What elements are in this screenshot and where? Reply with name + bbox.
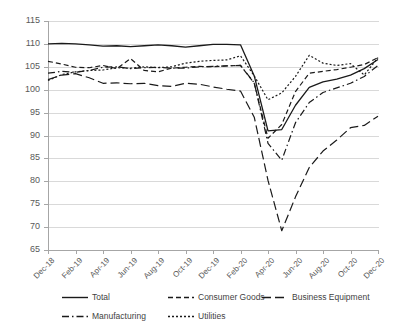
x-axis-tick-label: Oct-19 bbox=[165, 256, 194, 285]
legend-label: Consumer Goods bbox=[198, 292, 265, 302]
x-axis-tick-label: Apr-20 bbox=[247, 256, 276, 285]
x-axis-tick-label: Aug-20 bbox=[302, 256, 331, 285]
x-axis-tick-mark bbox=[76, 250, 77, 254]
y-axis-tick-label: 65 bbox=[0, 245, 40, 254]
x-axis-tick-label: Feb-19 bbox=[55, 256, 84, 285]
x-axis-tick-label: Oct-20 bbox=[330, 256, 359, 285]
legend-label: Total bbox=[92, 292, 110, 302]
legend-swatch-icon bbox=[62, 293, 88, 302]
x-axis-tick-label: Dec-19 bbox=[192, 256, 221, 285]
plot-area bbox=[48, 21, 378, 250]
y-axis-tick-label: 95 bbox=[0, 108, 40, 117]
y-axis-tick-label: 80 bbox=[0, 176, 40, 185]
x-axis-tick-label: Jun-20 bbox=[275, 256, 304, 285]
x-axis-tick-mark bbox=[158, 250, 159, 254]
series-line-consumer-goods bbox=[48, 58, 378, 139]
legend-item-consumer-goods[interactable]: Consumer Goods bbox=[168, 288, 265, 306]
x-axis-tick-label: Apr-19 bbox=[82, 256, 111, 285]
x-axis-tick-mark bbox=[241, 250, 242, 254]
x-axis-tick-mark bbox=[296, 250, 297, 254]
x-axis-tick-mark bbox=[323, 250, 324, 254]
series-lines bbox=[48, 21, 378, 250]
legend-swatch-icon bbox=[262, 293, 288, 302]
x-axis-tick-label: Dec-20 bbox=[357, 256, 386, 285]
x-axis-tick-label: Feb-20 bbox=[220, 256, 249, 285]
chart-legend: TotalConsumer GoodsBusiness EquipmentMan… bbox=[0, 288, 396, 330]
x-axis-tick-mark bbox=[378, 250, 379, 254]
x-axis-tick-mark bbox=[351, 250, 352, 254]
x-axis-tick-mark bbox=[213, 250, 214, 254]
legend-label: Utilities bbox=[198, 311, 225, 321]
legend-swatch-icon bbox=[168, 293, 194, 302]
x-axis-tick-label: Dec-18 bbox=[27, 256, 56, 285]
plot-wrapper: 11511010510095908580757065 Dec-18Feb-19A… bbox=[0, 0, 396, 262]
x-axis-tick-mark bbox=[186, 250, 187, 254]
y-axis-tick-label: 105 bbox=[0, 62, 40, 71]
x-axis-tick-mark bbox=[268, 250, 269, 254]
y-axis-tick-label: 75 bbox=[0, 199, 40, 208]
legend-label: Business Equipment bbox=[292, 292, 370, 302]
legend-label: Manufacturing bbox=[92, 311, 146, 321]
x-axis-tick-label: Aug-19 bbox=[137, 256, 166, 285]
series-line-utilities bbox=[48, 55, 378, 99]
industrial-production-index-chart: 11511010510095908580757065 Dec-18Feb-19A… bbox=[0, 0, 396, 330]
series-line-business-equipment bbox=[48, 74, 378, 231]
x-axis-tick-label: Jun-19 bbox=[110, 256, 139, 285]
x-axis-tick-mark bbox=[103, 250, 104, 254]
legend-item-total[interactable]: Total bbox=[62, 288, 110, 306]
y-axis-tick-label: 115 bbox=[0, 16, 40, 25]
x-axis-tick-mark bbox=[48, 250, 49, 254]
series-line-total bbox=[48, 43, 378, 130]
x-axis-tick-mark bbox=[131, 250, 132, 254]
y-axis-tick-label: 110 bbox=[0, 39, 40, 48]
legend-row: TotalConsumer GoodsBusiness Equipment bbox=[0, 288, 396, 306]
y-axis-tick-label: 90 bbox=[0, 131, 40, 140]
legend-row: ManufacturingUtilities bbox=[0, 307, 396, 325]
y-axis-tick-label: 100 bbox=[0, 85, 40, 94]
legend-swatch-icon bbox=[168, 312, 194, 321]
y-axis-tick-label: 85 bbox=[0, 153, 40, 162]
legend-item-manufacturing[interactable]: Manufacturing bbox=[62, 307, 146, 325]
y-axis-tick-label: 70 bbox=[0, 222, 40, 231]
legend-item-utilities[interactable]: Utilities bbox=[168, 307, 225, 325]
legend-item-business-equipment[interactable]: Business Equipment bbox=[262, 288, 370, 306]
series-line-manufacturing bbox=[48, 65, 378, 160]
legend-swatch-icon bbox=[62, 312, 88, 321]
